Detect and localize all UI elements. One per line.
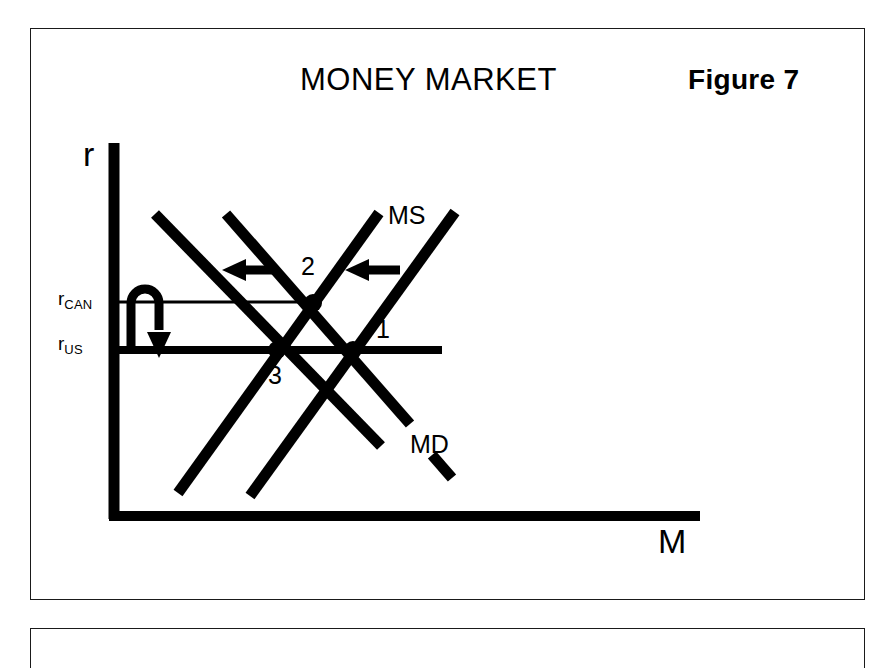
y-axis-label: r bbox=[83, 137, 94, 171]
next-figure-border-partial bbox=[30, 628, 865, 668]
equilibrium-point-1-label: 1 bbox=[376, 317, 390, 342]
r-can-label: rCAN bbox=[58, 289, 92, 311]
equilibrium-point-3-label: 3 bbox=[268, 363, 282, 388]
money-demand-curve-label: MD bbox=[410, 432, 449, 457]
figure-number-label: Figure 7 bbox=[688, 64, 799, 96]
r-us-subscript: US bbox=[64, 342, 82, 357]
chart-title: MONEY MARKET bbox=[300, 62, 557, 98]
r-can-subscript: CAN bbox=[64, 297, 92, 312]
equilibrium-point-2-label: 2 bbox=[301, 254, 315, 279]
figure-border bbox=[30, 28, 865, 600]
money-supply-curve-label: MS bbox=[388, 203, 426, 228]
r-us-label: rUS bbox=[58, 334, 83, 356]
x-axis-label: M bbox=[658, 524, 686, 558]
